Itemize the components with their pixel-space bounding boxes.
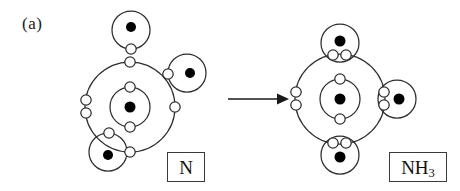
label-box-nitrogen: N (167, 152, 205, 182)
h-right-nucleus (185, 68, 195, 78)
nh3-bond-pair-right-b (379, 100, 389, 110)
n-inner-electron-top (125, 82, 135, 92)
arrow-head (277, 94, 289, 105)
figure-canvas: (a) (0, 0, 460, 191)
nh3-h-bottom-nucleus (335, 152, 346, 163)
label-ammonia-subscript: 3 (429, 166, 435, 180)
nh3-n-inner-electron-bottom (335, 114, 345, 124)
h-bottom-electron (104, 128, 114, 138)
label-ammonia: NH3 (401, 158, 435, 177)
label-nitrogen: N (179, 158, 193, 177)
nh3-n-nucleus (335, 94, 346, 105)
nh3-h-right-nucleus (394, 94, 405, 105)
n-outer-electron-right (170, 102, 180, 112)
nh3-lone-pair-left-b (291, 100, 301, 110)
h-top-nucleus (126, 22, 136, 32)
nh3-bond-pair-bottom-a (328, 138, 338, 148)
label-ammonia-main: NH (401, 157, 428, 178)
nh3-bond-pair-bottom-b (341, 138, 351, 148)
h-bottom-nucleus (103, 150, 113, 160)
nh3-lone-pair-left-a (291, 87, 301, 97)
reactant-hydrogen-top (112, 11, 150, 54)
n-inner-electron-bottom (125, 122, 135, 132)
n-outer-electron-left-lower (81, 108, 91, 118)
reactant-group (81, 11, 206, 171)
nh3-h-top-nucleus (335, 36, 346, 47)
n-outer-electron-bottom (125, 147, 135, 157)
reaction-arrow (228, 94, 289, 105)
n-nucleus (125, 102, 136, 113)
h-top-electron (126, 44, 136, 54)
product-nitrogen (291, 50, 389, 148)
nh3-bond-pair-top-b (341, 50, 351, 60)
nh3-bond-pair-right-a (379, 87, 389, 97)
n-outer-electron-left-upper (81, 95, 91, 105)
product-hydrogen-right (378, 80, 416, 118)
nh3-n-inner-electron-top (335, 74, 345, 84)
nh3-bond-pair-top-a (328, 50, 338, 60)
n-outer-electron-top (125, 57, 135, 67)
label-box-ammonia: NH3 (389, 152, 447, 182)
